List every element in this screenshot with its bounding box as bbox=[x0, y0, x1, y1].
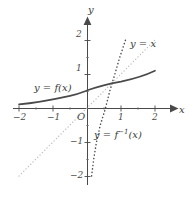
curve-label-finv-prefix: y = f bbox=[94, 129, 118, 140]
y-axis-arrow bbox=[84, 17, 92, 26]
curve-label-identity: y = x bbox=[130, 38, 156, 49]
origin-label: O bbox=[77, 111, 85, 122]
y-tick-label-2: 2 bbox=[76, 29, 82, 39]
y-tick-label-1: 1 bbox=[76, 63, 82, 73]
x-axis-arrow bbox=[170, 105, 179, 113]
x-axis-label: x bbox=[179, 104, 185, 115]
x-tick-label--2: −2 bbox=[13, 112, 26, 122]
y-axis bbox=[84, 17, 92, 186]
y-axis-label: y bbox=[88, 4, 94, 15]
graph-canvas bbox=[0, 0, 189, 199]
function-inverse-graph-figure: x y O −2 −1 1 2 2 1 −1 −2 y = f(x) y = x… bbox=[0, 0, 189, 199]
curve-label-finv-exponent: −1 bbox=[118, 128, 128, 136]
y-tick-label--2: −2 bbox=[70, 170, 83, 180]
curve-label-finv: y = f−1(x) bbox=[94, 128, 142, 140]
curve-label-f: y = f(x) bbox=[34, 82, 72, 93]
curve-label-finv-suffix: (x) bbox=[128, 129, 141, 140]
x-tick-label--1: −1 bbox=[47, 112, 60, 122]
y-tick-label--1: −1 bbox=[70, 136, 83, 146]
x-tick-label-1: 1 bbox=[118, 112, 124, 122]
x-tick-label-2: 2 bbox=[152, 112, 158, 122]
